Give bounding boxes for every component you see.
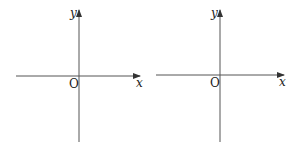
x-axis-label: x [136, 76, 143, 90]
diagram-canvas: y x O y x O [0, 0, 292, 147]
right-coordinate-system: y x O [156, 6, 286, 142]
y-axis-label: y [69, 6, 77, 20]
left-coordinate-system: y x O [16, 6, 143, 142]
y-axis-label: y [210, 6, 218, 20]
x-axis-label: x [279, 75, 286, 89]
origin-label: O [69, 77, 79, 91]
origin-label: O [210, 76, 220, 90]
